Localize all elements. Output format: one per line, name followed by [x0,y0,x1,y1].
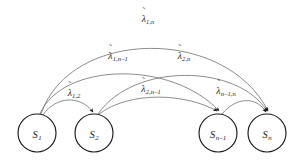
tilde-accent-icon: ˜ [109,44,112,52]
edge-label-1-nm1: ˜λ1,n–1 [108,50,127,61]
tilde-accent-icon: ˜ [142,77,145,85]
tilde-accent-icon: ˜ [142,7,145,15]
arc-2-nm1 [99,97,217,114]
edge-label-1-n: ˜λ1,n [142,13,155,24]
tilde-accent-icon: ˜ [217,79,220,87]
node-label-s2: S2 [89,129,98,140]
arc-2-n [98,75,267,114]
state-transition-diagram: S1 S2 Sn–1 Sn ˜λ1,n ˜λ1,n–1 ˜λ2,n ˜λ1,2 … [0,0,298,163]
node-circles [18,114,286,152]
node-label-s1: S1 [32,129,41,140]
node-label-sn: Sn [262,129,271,140]
tilde-accent-icon: ˜ [178,44,181,52]
arc-nm1-n [222,101,266,114]
edge-label-2-nm1: ˜λ2,n–1 [141,83,160,94]
node-label-sn-1: Sn–1 [210,129,226,140]
edge-label-2-n: ˜λ2,n [178,50,191,61]
edge-label-nm1-n: ˜λn–1,n [216,85,235,96]
edge-label-1-2: ˜λ1,2 [68,87,81,98]
tilde-accent-icon: ˜ [68,81,71,89]
arc-1-2 [43,100,93,115]
